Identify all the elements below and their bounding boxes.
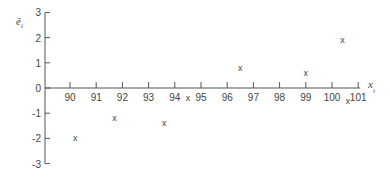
residual-scatter-plot: 3210-1-2-3 90919293949596979899100101 xx… (0, 0, 390, 178)
x-tick-label: 93 (143, 92, 155, 103)
data-point-marker: x (73, 133, 78, 143)
y-axis: 3210-1-2-3 (32, 7, 50, 169)
data-point-marker: x (345, 96, 350, 106)
data-point-marker: x (112, 113, 117, 123)
y-tick-label: 1 (35, 58, 41, 69)
data-point-marker: x (162, 118, 167, 128)
x-tick-label: 97 (248, 92, 260, 103)
data-points: xxxxxxxx (73, 35, 350, 143)
y-tick-label: -1 (32, 108, 41, 119)
y-tick-label: 2 (35, 33, 41, 44)
data-point-marker: x (340, 35, 345, 45)
x-tick-label: 92 (117, 92, 129, 103)
x-tick-label: 100 (324, 92, 341, 103)
y-axis-label: êi (16, 15, 23, 30)
x-tick-label: 96 (222, 92, 234, 103)
data-point-marker: x (304, 68, 309, 78)
y-tick-label: -2 (32, 133, 41, 144)
x-tick-label: 99 (300, 92, 312, 103)
y-tick-label: 3 (35, 7, 41, 18)
x-tick-label: 95 (195, 92, 207, 103)
x-axis: 90919293949596979899100101 (45, 82, 367, 103)
y-tick-label: -3 (32, 159, 41, 170)
x-tick-label: 90 (64, 92, 76, 103)
x-tick-label: 94 (169, 92, 181, 103)
data-point-marker: x (186, 93, 191, 103)
x-tick-label: 91 (91, 92, 103, 103)
data-point-marker: x (238, 63, 243, 73)
x-tick-label: 101 (350, 92, 367, 103)
x-axis-label: xi (367, 78, 375, 95)
y-tick-label: 0 (35, 83, 41, 94)
x-tick-label: 98 (274, 92, 286, 103)
